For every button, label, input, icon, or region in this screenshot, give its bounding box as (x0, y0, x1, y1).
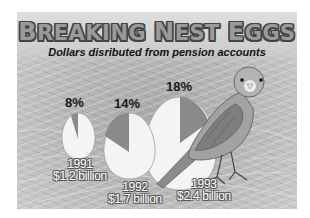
egg-1991 (62, 113, 95, 159)
egg-1991-percent: 8% (65, 95, 84, 110)
egg-1992-label: 1992 $1.7 billion (100, 181, 170, 205)
egg-1992-amount: $1.7 billion (100, 193, 170, 205)
egg-1992-percent: 14% (114, 96, 140, 111)
egg-1993-label: 1993 $2.4 billion (166, 178, 242, 202)
egg-1991-label: 1991 $1.2 billion (45, 158, 115, 182)
egg-1993-percent: 18% (166, 79, 192, 94)
infographic-frame: BREAKING NEST EGGS Dollars disributed fr… (17, 12, 297, 209)
egg-1993-amount: $2.4 billion (166, 190, 242, 202)
bird-eye (240, 78, 244, 82)
